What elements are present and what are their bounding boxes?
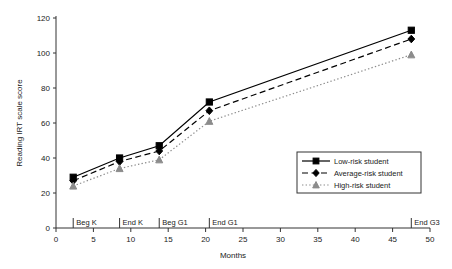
x-axis-ticks: 05101520253035404550 <box>54 228 435 244</box>
x-tick-label: 30 <box>276 235 285 244</box>
marker-diamond <box>206 107 213 115</box>
x-tick-label: 0 <box>54 235 59 244</box>
y-axis-ticks: 020406080100120 <box>37 14 56 233</box>
x-tick-label: 35 <box>313 235 322 244</box>
legend-item-label: High-risk student <box>334 181 391 190</box>
x-tick-label: 20 <box>201 235 210 244</box>
x-tick-label: 10 <box>126 235 135 244</box>
marker-diamond <box>408 35 415 43</box>
chart-legend: Low-risk studentAverage-risk studentHigh… <box>297 152 421 193</box>
legend-item-label: Low-risk student <box>334 157 390 166</box>
period-label: Beg G1 <box>162 218 187 227</box>
y-tick-label: 40 <box>41 154 50 163</box>
period-annotation-layer: Beg KEnd KBeg G1End G1End G3 <box>73 218 440 228</box>
y-tick-label: 60 <box>41 119 50 128</box>
x-tick-label: 40 <box>351 235 360 244</box>
x-tick-label: 15 <box>164 235 173 244</box>
reading-growth-line-chart: 020406080100120 05101520253035404550 Beg… <box>0 0 452 269</box>
period-label: End G3 <box>414 218 439 227</box>
legend-item-label: Average-risk student <box>334 169 404 178</box>
y-tick-label: 120 <box>37 14 51 23</box>
x-tick-label: 5 <box>91 235 96 244</box>
x-tick-label: 25 <box>239 235 248 244</box>
marker-square <box>408 27 414 33</box>
period-label: End G1 <box>212 218 237 227</box>
y-tick-label: 100 <box>37 49 51 58</box>
marker-triangle <box>156 156 163 163</box>
marker-square <box>313 158 319 164</box>
y-tick-label: 0 <box>46 224 51 233</box>
x-tick-label: 50 <box>426 235 435 244</box>
marker-square <box>206 99 212 105</box>
y-axis-title: Reading IRT scale score <box>15 79 24 167</box>
y-tick-label: 20 <box>41 189 50 198</box>
marker-triangle <box>70 182 77 189</box>
marker-triangle <box>116 165 123 172</box>
x-axis-title: Months <box>220 251 246 260</box>
x-tick-label: 45 <box>388 235 397 244</box>
chart-figure: 020406080100120 05101520253035404550 Beg… <box>0 0 452 269</box>
period-label: Beg K <box>76 218 96 227</box>
marker-triangle <box>408 51 415 58</box>
y-tick-label: 80 <box>41 84 50 93</box>
period-label: End K <box>123 218 143 227</box>
